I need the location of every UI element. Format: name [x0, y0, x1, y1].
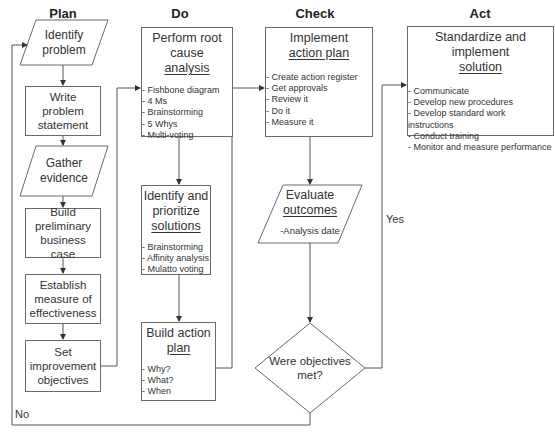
column-header-plan: Plan — [38, 6, 88, 21]
list-item: Measure it — [266, 117, 372, 128]
list-item: 5 Whys — [142, 119, 232, 130]
column-header-act: Act — [455, 6, 505, 21]
set-objectives-node: Set improvement objectives — [25, 340, 101, 392]
list-item: Why? — [142, 364, 215, 375]
write-problem-statement-node: Write problem statement — [25, 86, 101, 136]
list-item: Develop standard work instructions — [408, 108, 553, 130]
build-business-case-label: Build preliminary business case — [30, 205, 96, 261]
root-cause-methods: Fishbone diagram 4 Ms Brainstorming 5 Wh… — [142, 85, 232, 141]
prioritize-methods: Brainstorming Affinity analysis Mulatto … — [142, 242, 210, 276]
identify-problem-node: Identify problem — [28, 20, 100, 65]
build-business-case-node: Build preliminary business case — [25, 208, 101, 258]
list-item: Monitor and measure performance — [408, 142, 553, 153]
column-header-check: Check — [285, 6, 345, 21]
list-item: Brainstorming — [142, 107, 232, 118]
prioritize-title: Identify and prioritize solutions — [142, 186, 210, 234]
establish-measure-label: Establish measure of effectiveness — [30, 278, 97, 320]
evaluate-detail: -Analysis date — [280, 223, 340, 238]
standardize-title: Standardize and implement solution — [408, 27, 553, 75]
root-cause-title: Perform root cause analysis — [142, 28, 232, 76]
write-problem-statement-label: Write problem statement — [30, 90, 96, 132]
gather-evidence-label: Gather evidence — [34, 156, 94, 186]
identify-problem-label: Identify problem — [34, 28, 94, 58]
implement-action-plan-node: Implement action plan Create action regi… — [265, 27, 373, 137]
establish-measure-node: Establish measure of effectiveness — [25, 274, 101, 324]
no-edge-label: No — [15, 408, 29, 420]
list-item: Affinity analysis — [142, 253, 210, 264]
list-item: Develop new procedures — [408, 97, 553, 108]
implement-steps: Create action register Get approvals Rev… — [266, 72, 372, 128]
root-cause-analysis-node: Perform root cause analysis Fishbone dia… — [141, 27, 233, 137]
yes-edge-label: Yes — [386, 213, 404, 225]
list-item: Multi-voting — [142, 130, 232, 141]
evaluate-outcomes-node: Evaluate outcomes -Analysis date — [270, 188, 350, 240]
list-item: Get approvals — [266, 83, 372, 94]
list-item: Mulatto voting — [142, 264, 210, 275]
implement-title: Implement action plan — [266, 28, 372, 61]
standardize-steps: Communicate Develop new procedures Devel… — [408, 86, 553, 153]
set-objectives-label: Set improvement objectives — [30, 345, 96, 387]
list-item: Communicate — [408, 86, 553, 97]
list-item: 4 Ms — [142, 96, 232, 107]
list-item: Create action register — [266, 72, 372, 83]
gather-evidence-node: Gather evidence — [28, 146, 100, 196]
standardize-solution-node: Standardize and implement solution Commu… — [407, 26, 554, 136]
build-action-plan-node: Build action plan Why? What? When — [141, 322, 216, 401]
list-item: What? — [142, 375, 215, 386]
prioritize-solutions-node: Identify and prioritize solutions Brains… — [141, 185, 211, 275]
list-item: Fishbone diagram — [142, 85, 232, 96]
decision-node: Were objectives met? — [260, 354, 360, 382]
action-plan-questions: Why? What? When — [142, 364, 215, 398]
column-header-do: Do — [160, 6, 200, 21]
list-item: Conduct training — [408, 131, 553, 142]
list-item: Do it — [266, 106, 372, 117]
list-item: When — [142, 386, 215, 397]
list-item: Review it — [266, 94, 372, 105]
action-plan-title: Build action plan — [142, 323, 215, 356]
list-item: Brainstorming — [142, 242, 210, 253]
